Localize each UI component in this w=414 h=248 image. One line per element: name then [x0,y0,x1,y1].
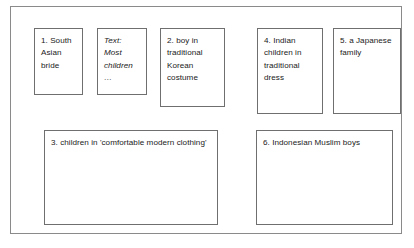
box-boy-traditional-korean-costume: 2. boy in traditional Korean costume [160,28,225,107]
box-label: Text: Most children … [104,35,141,85]
box-label: 3. children in 'comfortable modern cloth… [51,137,212,149]
box-label: 4. Indian children in traditional dress [264,35,317,85]
box-south-asian-bride: 1. South Asian bride [34,28,83,95]
box-indian-children-traditional-dress: 4. Indian children in traditional dress [257,28,323,114]
box-label: 2. boy in traditional Korean costume [167,35,219,85]
box-label: 6. Indonesian Muslim boys [263,137,387,149]
box-indonesian-muslim-boys: 6. Indonesian Muslim boys [256,130,393,225]
diagram-root: 1. South Asian bride Text: Most children… [0,0,414,248]
box-label: 5. a Japanese family [340,35,395,60]
box-japanese-family: 5. a Japanese family [333,28,401,114]
box-children-comfortable-modern-clothing: 3. children in 'comfortable modern cloth… [44,130,218,225]
outer-frame: 1. South Asian bride Text: Most children… [10,6,402,234]
box-label: 1. South Asian bride [41,35,77,72]
box-text-most-children: Text: Most children … [97,28,147,95]
